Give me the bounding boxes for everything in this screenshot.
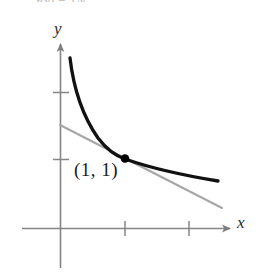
y-axis-label: y <box>54 20 62 37</box>
graph-figure: f(x) = 1/x y x (1, 1) <box>0 0 259 273</box>
tangency-point-marker <box>121 154 130 163</box>
y-axis <box>53 44 69 268</box>
plot-canvas <box>0 0 259 273</box>
x-axis <box>22 221 230 236</box>
tangency-point-label: (1, 1) <box>74 160 118 179</box>
x-axis-label: x <box>237 214 245 231</box>
